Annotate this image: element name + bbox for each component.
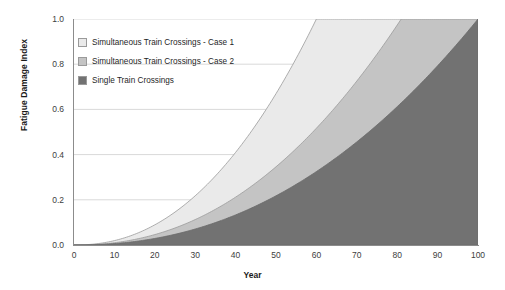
x-tick-label: 10 <box>94 250 134 260</box>
x-tick-label: 30 <box>175 250 215 260</box>
y-axis-ticks: 0.00.20.40.60.81.0 <box>32 0 64 290</box>
x-axis-ticks: 0102030405060708090100 <box>0 250 505 270</box>
y-tick-label: 0.0 <box>38 240 64 250</box>
legend-item: Simultaneous Train Crossings - Case 2 <box>78 52 234 71</box>
x-tick-label: 60 <box>296 250 336 260</box>
legend-item: Single Train Crossings <box>78 71 234 90</box>
x-tick-label: 0 <box>54 250 94 260</box>
legend-swatch-icon <box>78 76 87 85</box>
x-tick-label: 90 <box>418 250 458 260</box>
legend-swatch-icon <box>78 57 87 66</box>
y-axis-title: Fatigue Damage Index <box>19 5 29 165</box>
y-tick-label: 0.6 <box>38 104 64 114</box>
x-tick-label: 70 <box>337 250 377 260</box>
y-tick-label: 0.2 <box>38 195 64 205</box>
x-tick-label: 50 <box>256 250 296 260</box>
legend-label: Simultaneous Train Crossings - Case 2 <box>92 57 234 66</box>
x-tick-label: 20 <box>135 250 175 260</box>
fatigue-damage-chart: Fatigue Damage Index 0.00.20.40.60.81.0 … <box>0 0 505 290</box>
legend-label: Single Train Crossings <box>92 76 174 85</box>
x-axis-title: Year <box>0 270 505 280</box>
y-tick-label: 0.4 <box>38 150 64 160</box>
chart-legend: Simultaneous Train Crossings - Case 1Sim… <box>78 33 234 90</box>
y-tick-label: 1.0 <box>38 14 64 24</box>
legend-label: Simultaneous Train Crossings - Case 1 <box>92 38 234 47</box>
y-tick-label: 0.8 <box>38 59 64 69</box>
x-tick-label: 100 <box>458 250 498 260</box>
y-axis-line <box>73 19 74 246</box>
x-axis-line <box>74 245 479 246</box>
x-tick-label: 80 <box>377 250 417 260</box>
legend-swatch-icon <box>78 38 87 47</box>
x-tick-label: 40 <box>216 250 256 260</box>
legend-item: Simultaneous Train Crossings - Case 1 <box>78 33 234 52</box>
